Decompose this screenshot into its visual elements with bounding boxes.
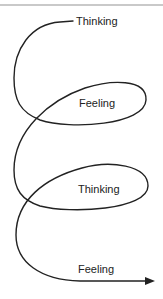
label-thinking-1: Thinking — [76, 15, 118, 27]
arrow-right-icon — [145, 277, 155, 285]
label-thinking-2: Thinking — [78, 183, 120, 195]
label-feeling-2: Feeling — [78, 263, 114, 275]
spiral-flow-line — [0, 0, 163, 299]
label-feeling-1: Feeling — [79, 97, 115, 109]
